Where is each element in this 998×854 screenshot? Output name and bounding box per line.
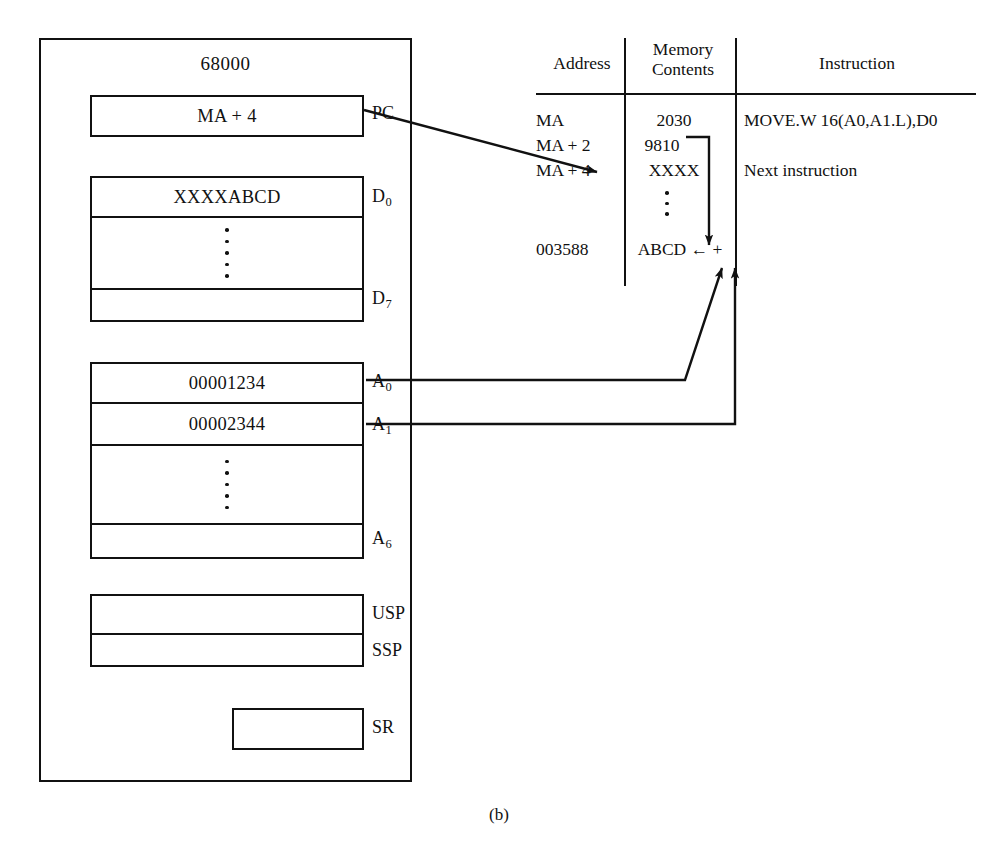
table-row-contents: ABCD ← + bbox=[620, 239, 740, 260]
table-header-memory-contents-line1: Memory bbox=[630, 40, 736, 60]
register-cell-d-ellipsis bbox=[92, 216, 362, 288]
register-value-a0: 00001234 bbox=[189, 373, 265, 394]
register-value-d0: XXXXABCD bbox=[173, 187, 280, 208]
figure-caption: (b) bbox=[0, 805, 998, 825]
register-cell-pc: MA + 4 bbox=[92, 97, 362, 135]
table-header-memory-contents: Memory Contents bbox=[630, 40, 736, 79]
table-header-memory-contents-line2: Contents bbox=[630, 60, 736, 80]
register-cell-a1: 00002344 bbox=[92, 402, 362, 444]
register-cell-d0: XXXXABCD bbox=[92, 178, 362, 216]
table-row-instruction: Next instruction bbox=[744, 160, 984, 181]
table-row-address: 003588 bbox=[536, 239, 628, 260]
table-header-instruction: Instruction bbox=[742, 54, 972, 74]
register-group-data: XXXXABCD bbox=[90, 176, 364, 322]
table-header-rule bbox=[536, 93, 976, 95]
register-label-pc: PC bbox=[372, 103, 394, 124]
register-group-sr bbox=[232, 708, 364, 750]
table-row-address: MA bbox=[536, 110, 628, 131]
register-cell-a-ellipsis bbox=[92, 444, 362, 523]
register-cell-usp bbox=[92, 596, 362, 633]
register-label-a0: A0 bbox=[372, 371, 391, 392]
register-group-pc: MA + 4 bbox=[90, 95, 364, 137]
table-row-contents: 2030 bbox=[624, 110, 724, 131]
figure-68000-indexed-addressing: 68000 MA + 4 PC XXXXABCD D0 D7 00001234 … bbox=[0, 0, 998, 854]
register-group-address: 00001234 00002344 bbox=[90, 362, 364, 559]
vertical-ellipsis-icon bbox=[92, 218, 362, 288]
register-cell-sr bbox=[234, 710, 362, 748]
register-label-d0: D0 bbox=[372, 186, 391, 207]
register-label-usp: USP bbox=[372, 603, 405, 624]
register-label-sr: SR bbox=[372, 717, 394, 738]
vertical-ellipsis-icon bbox=[92, 446, 362, 523]
register-label-a6: A6 bbox=[372, 528, 391, 549]
table-row-contents: 9810 bbox=[612, 135, 712, 156]
table-vertical-ellipsis-icon bbox=[665, 191, 669, 216]
register-cell-a0: 00001234 bbox=[92, 364, 362, 402]
table-row-contents: XXXX bbox=[624, 160, 724, 181]
register-cell-a6 bbox=[92, 523, 362, 561]
register-label-d7: D7 bbox=[372, 288, 391, 309]
table-row-address: MA + 4 bbox=[536, 160, 628, 181]
register-label-ssp: SSP bbox=[372, 640, 402, 661]
cpu-title: 68000 bbox=[39, 53, 412, 75]
memory-table: Address Memory Contents Instruction MA 2… bbox=[520, 36, 980, 286]
register-label-a1: A1 bbox=[372, 414, 391, 435]
arrow-a1-to-sum bbox=[366, 268, 735, 424]
table-row-instruction: MOVE.W 16(A0,A1.L),D0 bbox=[744, 110, 984, 131]
register-cell-ssp bbox=[92, 633, 362, 669]
register-cell-d7 bbox=[92, 288, 362, 324]
register-value-a1: 00002344 bbox=[189, 414, 265, 435]
table-header-address: Address bbox=[536, 54, 628, 74]
register-group-stack-pointers bbox=[90, 594, 364, 667]
register-value-pc: MA + 4 bbox=[197, 106, 257, 127]
